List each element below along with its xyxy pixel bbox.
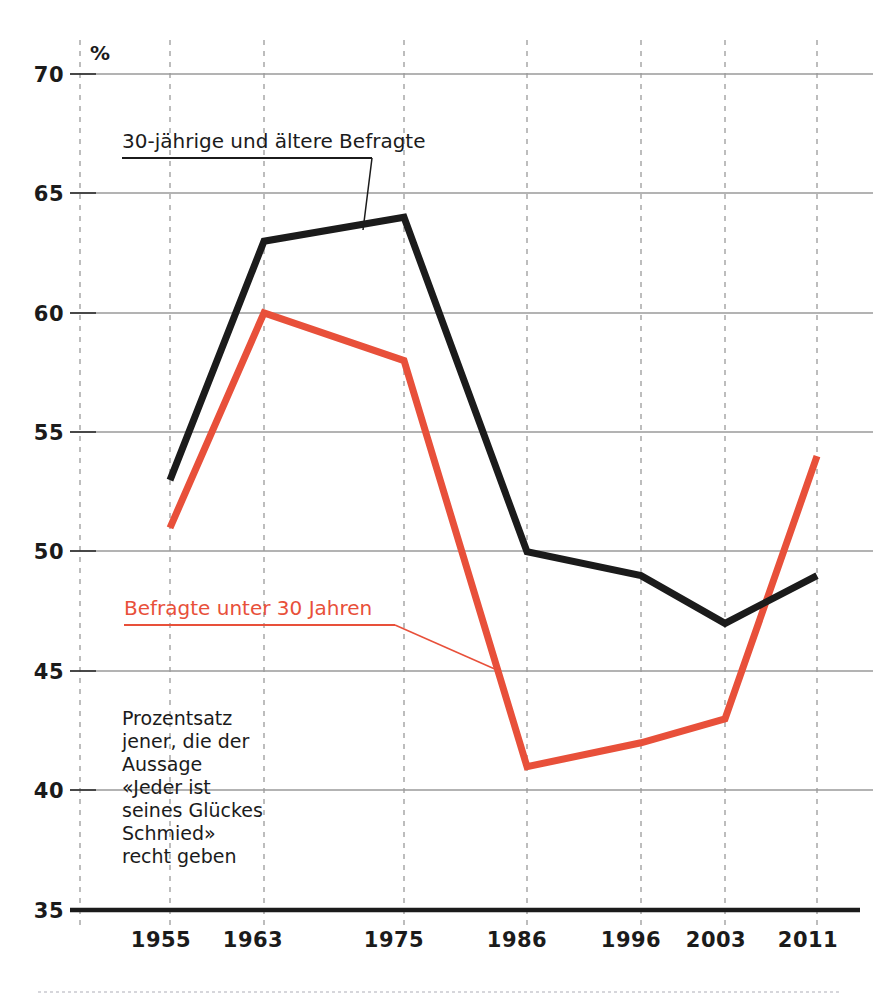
- ytick-label-50: 50: [34, 540, 64, 564]
- note-line-5: seines Glückes: [122, 799, 263, 821]
- ytick-label-70: 70: [34, 63, 64, 87]
- ytick-label-55: 55: [34, 421, 64, 445]
- chart-note: Prozentsatz jener, die der Aussage «Jede…: [121, 707, 263, 867]
- chart-figure: 70 65 60 55 50 45 40 35 % 1955 1963 1975…: [0, 0, 873, 1007]
- xtick-label-1996: 1996: [601, 928, 661, 952]
- series-label-older: 30-jährige und ältere Befragte: [122, 129, 426, 153]
- xtick-label-1955: 1955: [131, 928, 191, 952]
- note-line-3: Aussage: [122, 753, 202, 775]
- ytick-label-40: 40: [34, 779, 64, 803]
- series-line-younger: [170, 313, 817, 767]
- xtick-label-1986: 1986: [487, 928, 547, 952]
- chart-canvas: 70 65 60 55 50 45 40 35 % 1955 1963 1975…: [0, 0, 873, 1007]
- y-tick-marks: [70, 74, 96, 790]
- leader-line-older: [122, 158, 372, 230]
- series-line-older: [170, 217, 817, 623]
- ytick-label-35: 35: [34, 899, 64, 923]
- note-line-2: jener, die der: [121, 730, 249, 752]
- ytick-label-65: 65: [34, 182, 64, 206]
- xtick-label-1963: 1963: [223, 928, 283, 952]
- note-line-6: Schmied»: [122, 822, 216, 844]
- note-line-7: recht geben: [122, 845, 237, 867]
- ytick-label-60: 60: [34, 302, 64, 326]
- note-line-4: «Jeder ist: [122, 776, 211, 798]
- leader-line-younger: [124, 625, 497, 670]
- note-line-1: Prozentsatz: [122, 707, 232, 729]
- xtick-label-1975: 1975: [364, 928, 424, 952]
- y-axis-unit-label: %: [90, 41, 110, 65]
- series-label-younger: Befragte unter 30 Jahren: [124, 596, 372, 620]
- xtick-label-2011: 2011: [778, 928, 838, 952]
- ytick-label-45: 45: [34, 660, 64, 684]
- xtick-label-2003: 2003: [686, 928, 746, 952]
